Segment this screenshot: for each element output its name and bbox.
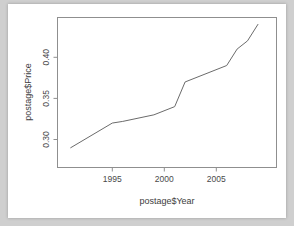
plot-canvas: 0.40 0.35 0.30 postage$Price 1995 2000 2…: [0, 0, 294, 226]
x-axis-title: postage$Year: [139, 196, 194, 206]
plot-frame: [58, 18, 277, 168]
price-line-series: [71, 24, 258, 147]
y-tick-label-0.30: 0.30: [41, 131, 51, 148]
x-tick-label-2005: 2005: [207, 174, 226, 184]
y-tick-label-0.40: 0.40: [41, 49, 51, 66]
screenshot-root: 0.40 0.35 0.30 postage$Price 1995 2000 2…: [0, 0, 294, 226]
x-tick-label-1995: 1995: [103, 174, 122, 184]
y-tick-label-0.35: 0.35: [41, 90, 51, 107]
x-tick-label-2000: 2000: [155, 174, 174, 184]
y-axis-title: postage$Price: [23, 63, 33, 121]
